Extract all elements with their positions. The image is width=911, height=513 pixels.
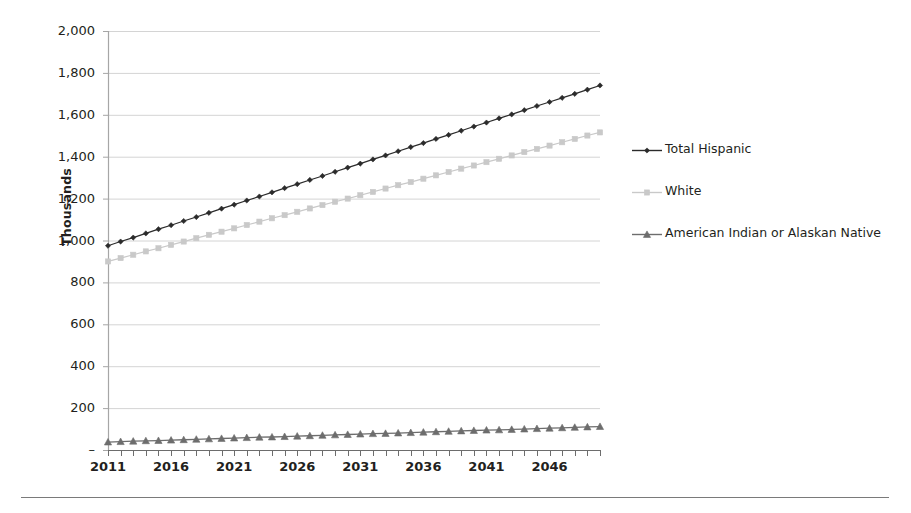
data-point-marker	[534, 103, 539, 108]
data-point-marker	[156, 246, 161, 251]
data-point-marker	[383, 186, 388, 191]
data-point-marker	[597, 83, 602, 88]
data-point-marker	[143, 249, 148, 254]
legend-item: Total Hispanic	[632, 138, 908, 180]
data-point-marker	[547, 99, 552, 104]
data-point-marker	[560, 95, 565, 100]
data-point-marker	[421, 176, 426, 181]
data-point-marker	[585, 133, 590, 138]
data-point-marker	[396, 183, 401, 188]
data-point-marker	[471, 163, 476, 168]
data-point-marker	[206, 232, 211, 237]
data-point-marker	[257, 194, 262, 199]
data-point-marker	[547, 143, 552, 148]
data-point-marker	[332, 199, 337, 204]
data-point-marker	[509, 153, 514, 158]
data-point-marker	[446, 132, 451, 137]
data-point-marker	[269, 216, 274, 221]
data-point-marker	[232, 226, 237, 231]
data-point-marker	[496, 156, 501, 161]
data-point-marker	[597, 130, 602, 135]
data-point-marker	[131, 235, 136, 240]
data-point-marker	[396, 149, 401, 154]
data-point-marker	[345, 165, 350, 170]
data-point-marker	[408, 179, 413, 184]
data-point-marker	[206, 210, 211, 215]
data-point-marker	[433, 173, 438, 178]
data-point-marker	[446, 169, 451, 174]
data-point-marker	[433, 136, 438, 141]
data-point-marker	[232, 202, 237, 207]
data-point-marker	[459, 166, 464, 171]
data-point-marker	[408, 144, 413, 149]
legend-label: White	[665, 182, 701, 199]
legend-label: Total Hispanic	[665, 140, 751, 157]
data-point-marker	[219, 229, 224, 234]
data-point-marker	[118, 239, 123, 244]
legend-item: White	[632, 180, 908, 222]
data-point-marker	[307, 206, 312, 211]
data-point-marker	[244, 222, 249, 227]
data-point-marker	[118, 255, 123, 260]
data-point-marker	[560, 140, 565, 145]
data-point-marker	[194, 214, 199, 219]
series-white	[105, 130, 602, 264]
chart-figure: Thousands 2,0001,8001,6001,4001,2001,000…	[0, 0, 911, 513]
diamond-marker	[632, 142, 662, 156]
data-point-marker	[181, 218, 186, 223]
data-point-marker	[370, 189, 375, 194]
chart-legend: Total HispanicWhiteAmerican Indian or Al…	[632, 138, 908, 264]
data-point-marker	[358, 193, 363, 198]
data-point-marker	[345, 196, 350, 201]
triangle-marker	[632, 226, 662, 240]
square-marker	[632, 184, 662, 198]
data-point-marker	[168, 223, 173, 228]
data-point-marker	[143, 231, 148, 236]
data-point-marker	[572, 91, 577, 96]
data-point-marker	[131, 252, 136, 257]
data-point-marker	[156, 227, 161, 232]
data-point-marker	[522, 108, 527, 113]
data-point-marker	[295, 182, 300, 187]
data-point-marker	[332, 169, 337, 174]
data-point-marker	[572, 136, 577, 141]
data-point-marker	[421, 140, 426, 145]
data-point-marker	[471, 124, 476, 129]
footer-divider	[21, 497, 889, 498]
series-american-indian-or-alaskan-native	[104, 423, 603, 445]
data-point-marker	[194, 236, 199, 241]
data-point-marker	[181, 239, 186, 244]
data-point-marker	[496, 116, 501, 121]
data-point-marker	[522, 149, 527, 154]
data-point-marker	[644, 148, 649, 153]
data-point-marker	[484, 160, 489, 165]
series-total-hispanic	[105, 83, 602, 248]
data-point-marker	[282, 213, 287, 218]
data-point-marker	[168, 242, 173, 247]
data-point-marker	[320, 202, 325, 207]
legend-label: American Indian or Alaskan Native	[665, 224, 881, 241]
data-point-marker	[358, 161, 363, 166]
legend-item: American Indian or Alaskan Native	[632, 222, 908, 264]
data-point-marker	[585, 87, 590, 92]
data-point-marker	[295, 209, 300, 214]
data-point-marker	[644, 190, 649, 195]
data-point-marker	[484, 120, 489, 125]
data-point-marker	[257, 219, 262, 224]
data-point-marker	[219, 206, 224, 211]
data-point-marker	[105, 259, 110, 264]
data-point-marker	[459, 128, 464, 133]
data-point-marker	[320, 173, 325, 178]
data-point-marker	[534, 146, 539, 151]
data-point-marker	[105, 243, 110, 248]
data-point-marker	[282, 186, 287, 191]
data-point-marker	[269, 190, 274, 195]
data-point-marker	[509, 112, 514, 117]
data-point-marker	[307, 177, 312, 182]
